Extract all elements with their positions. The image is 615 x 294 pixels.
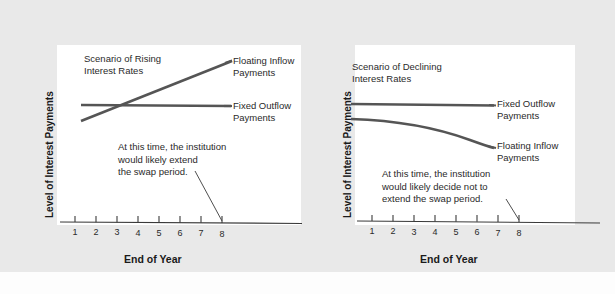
chart-graphics-right: 1 2 3 4 5 6 7 8: [0, 0, 615, 294]
x-tick-6-right: 6: [474, 227, 479, 237]
legend-connector-floating-right: [489, 147, 496, 149]
legend-connector-fixed-right: [489, 105, 496, 106]
x-axis-label-right: End of Year: [420, 253, 478, 265]
series-line-floating-inflow-right: [351, 119, 494, 148]
x-tick-7-right: 7: [495, 228, 500, 238]
x-tick-2-right: 2: [390, 226, 395, 236]
annotation-leader-line-right: [506, 199, 519, 220]
x-tick-3-right: 3: [411, 227, 416, 237]
figure-page: Level of Interest Payments Scenario of R…: [0, 0, 615, 294]
x-tick-5-right: 5: [453, 227, 458, 237]
x-axis-tick-labels-right: 1 2 3 4 5 6 7 8: [369, 226, 521, 238]
x-tick-8-right: 8: [516, 228, 521, 238]
x-tick-4-right: 4: [432, 227, 437, 237]
x-tick-1-right: 1: [369, 226, 374, 236]
series-line-fixed-outflow-right: [351, 104, 494, 106]
